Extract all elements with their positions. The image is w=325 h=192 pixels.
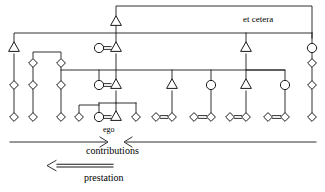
line-g1t3-children-bar xyxy=(246,54,285,80)
kin-node-diamond xyxy=(75,113,84,122)
prestation-arrowhead xyxy=(47,161,56,171)
kin-node-diamond xyxy=(29,113,38,122)
kin-node-diamond xyxy=(242,113,251,122)
kin-node-ego-triangle xyxy=(111,111,122,121)
kin-node-diamond xyxy=(10,81,19,90)
kin-symbols xyxy=(9,16,317,122)
label-ego: ego xyxy=(103,126,115,134)
kin-node-diamond xyxy=(29,81,38,90)
kin-node-diamond xyxy=(308,113,317,122)
prestation-arrow xyxy=(47,161,113,171)
kin-node-circle xyxy=(94,43,103,52)
kin-node-diamond xyxy=(57,81,66,90)
kin-node-diamond xyxy=(207,113,216,122)
kin-node-diamond xyxy=(281,113,290,122)
kin-node-diamond xyxy=(226,113,235,122)
kin-node-diamond xyxy=(57,113,66,122)
kin-node-circle xyxy=(94,112,103,121)
kin-node-diamond xyxy=(132,113,141,122)
kin-node-diamond xyxy=(152,113,161,122)
label-et-cetera: et cetera xyxy=(243,15,273,24)
kin-node-diamond xyxy=(57,59,66,68)
kin-node-circle xyxy=(206,80,215,89)
kin-node-diamond xyxy=(264,113,273,122)
kin-node-circle xyxy=(280,80,289,89)
kin-node-diamond xyxy=(190,113,199,122)
kin-node-diamond xyxy=(308,81,317,90)
label-prestation: prestation xyxy=(84,173,123,183)
kin-node-triangle xyxy=(167,79,178,89)
line-left-sibbar-gen1b xyxy=(33,52,61,58)
label-contributions: contributions xyxy=(86,146,139,156)
kin-node-diamond xyxy=(168,113,177,122)
kin-node-triangle xyxy=(111,42,122,52)
kin-node-triangle xyxy=(241,79,252,89)
kin-node-diamond xyxy=(10,113,19,122)
kin-node-triangle xyxy=(9,42,20,52)
kin-node-triangle xyxy=(111,16,122,26)
kin-node-diamond xyxy=(29,59,38,68)
line-g3d4-bar xyxy=(79,105,99,113)
kin-node-circle xyxy=(94,80,103,89)
line-gen1-sibling-bar xyxy=(14,33,312,42)
kin-node-diamond xyxy=(308,59,317,68)
contributions-axis xyxy=(10,137,316,147)
kin-node-circle xyxy=(307,43,316,52)
kin-node-triangle xyxy=(111,79,122,89)
kinship-diagram-figure: et cetera ego contributions prestation xyxy=(0,0,325,192)
kin-node-triangle xyxy=(241,42,252,52)
kinship-diagram-canvas xyxy=(0,0,325,192)
